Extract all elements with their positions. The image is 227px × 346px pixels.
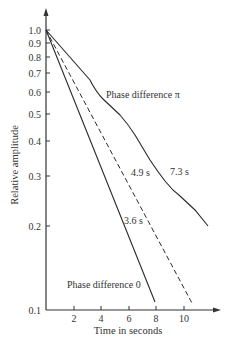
y-tick-0.6: 0.6 [29,87,42,98]
label-phase-pi: Phase difference π [106,89,180,100]
axes [46,12,216,310]
y-axis-arrow-icon [44,8,49,16]
x-tick-labels: 2 4 6 8 10 [72,313,190,324]
label-phase-0: Phase difference 0 [67,279,141,290]
x-tick-4: 4 [99,313,104,324]
y-axis-title: Relative amplitude [9,125,20,205]
y-tick-0.9: 0.9 [29,38,42,49]
y-tick-0.2: 0.2 [29,221,42,232]
x-tick-10: 10 [179,313,189,324]
series-phase-pi [46,30,208,226]
y-tick-0.4: 0.4 [29,136,42,147]
x-axis-arrow-icon [213,308,221,313]
y-tick-1.0: 1.0 [29,25,42,36]
series-phase-0 [46,30,155,302]
y-tick-0.3: 0.3 [29,171,42,182]
x-tick-6: 6 [127,313,132,324]
x-tick-2: 2 [72,313,77,324]
label-3-6s: 3.6 s [124,215,143,226]
y-tick-0.7: 0.7 [29,68,42,79]
x-tick-8: 8 [154,313,159,324]
y-tick-0.1: 0.1 [29,305,42,316]
y-tick-0.8: 0.8 [29,52,42,63]
label-4-9s: 4.9 s [131,167,150,178]
amplitude-decay-chart: 1.0 0.9 0.8 0.7 0.6 0.5 0.4 0.3 0.2 0.1 … [0,0,227,346]
y-tick-0.5: 0.5 [29,109,42,120]
label-7-3s: 7.3 s [170,166,189,177]
x-axis-title: Time in seconds [94,325,162,336]
y-tick-labels: 1.0 0.9 0.8 0.7 0.6 0.5 0.4 0.3 0.2 0.1 [29,25,42,316]
